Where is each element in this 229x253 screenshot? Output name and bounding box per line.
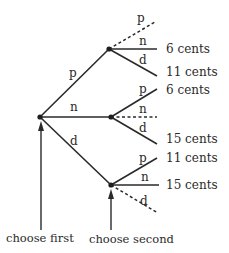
edge-p-p (109, 22, 155, 49)
label-root-d: d (70, 134, 78, 148)
outcome-n-p: 6 cents (166, 83, 210, 97)
edge-root-d (40, 117, 111, 185)
coin-tree-diagram: p n d p n d 6 cents 11 cents p n d 6 cen… (0, 0, 229, 253)
label-p-p: p (137, 11, 145, 25)
node-after-p (106, 46, 111, 51)
label-d-d: d (140, 194, 148, 208)
label-p-n: n (139, 34, 147, 48)
node-after-d (108, 182, 113, 187)
label-p-d: d (139, 53, 147, 67)
node-after-n (108, 114, 113, 119)
label-n-n: n (139, 102, 147, 116)
node-root (37, 114, 42, 119)
outcome-n-d: 15 cents (166, 132, 218, 146)
caption-choose-first: choose first (6, 231, 74, 245)
label-root-n: n (70, 100, 78, 114)
caption-choose-second: choose second (89, 232, 175, 246)
outcome-p-d: 11 cents (166, 65, 218, 79)
label-d-p: p (139, 151, 147, 165)
edge-n-d (111, 117, 157, 144)
edge-d-d (111, 185, 158, 213)
edge-d-p (111, 158, 157, 185)
label-n-d: d (139, 121, 147, 135)
label-n-p: p (139, 82, 147, 96)
label-d-n: n (141, 170, 149, 184)
outcome-p-n: 6 cents (166, 42, 210, 56)
outcome-d-p: 11 cents (166, 151, 218, 165)
label-root-p: p (69, 66, 77, 80)
edge-n-p (111, 89, 157, 117)
outcome-d-n: 15 cents (166, 178, 218, 192)
arrowhead-choose-first-icon (38, 121, 44, 131)
edge-p-d (109, 49, 157, 76)
arrowhead-choose-second-icon (108, 189, 114, 199)
